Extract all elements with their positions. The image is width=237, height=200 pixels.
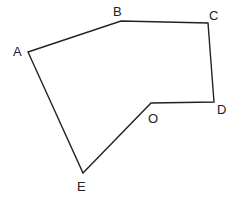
vertex-label-e: E <box>77 179 86 194</box>
vertex-label-b: B <box>113 4 122 19</box>
vertex-label-d: D <box>217 102 226 117</box>
vertex-label-c: C <box>209 8 218 23</box>
polygon-shape <box>28 21 214 173</box>
polygon-diagram: A B C D O E <box>0 0 237 200</box>
vertex-label-a: A <box>13 44 22 59</box>
vertex-label-o: O <box>148 111 158 126</box>
